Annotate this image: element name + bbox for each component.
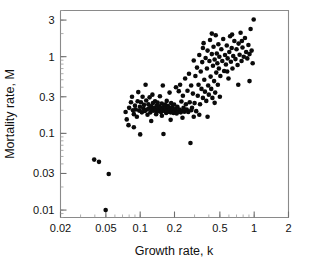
- data-point: [230, 32, 235, 37]
- data-point: [236, 82, 241, 87]
- data-point: [226, 76, 231, 81]
- data-point: [250, 61, 255, 66]
- x-tick-label: 0.05: [95, 222, 116, 234]
- y-tick-label: 0.03: [33, 167, 54, 179]
- y-axis-ticks: [61, 11, 67, 218]
- y-axis-tick-labels: 0.010.030.10.313: [33, 14, 54, 216]
- data-point: [246, 43, 251, 48]
- data-point: [215, 61, 220, 66]
- data-point: [210, 96, 215, 101]
- x-tick-label: 0.5: [212, 222, 227, 234]
- data-point: [183, 76, 188, 81]
- data-point: [207, 59, 212, 64]
- data-point: [187, 100, 192, 105]
- data-point: [224, 62, 229, 67]
- data-point: [212, 101, 217, 106]
- data-point: [187, 71, 192, 76]
- data-point: [201, 41, 206, 46]
- data-point: [132, 125, 137, 130]
- data-point: [192, 101, 197, 106]
- data-point: [136, 90, 141, 95]
- data-point: [209, 87, 214, 92]
- data-point: [251, 17, 256, 22]
- data-point: [232, 39, 237, 44]
- x-axis-ticks: [61, 212, 289, 218]
- data-point: [211, 44, 216, 49]
- y-tick-label: 3: [48, 14, 54, 26]
- data-point: [247, 79, 252, 84]
- data-point: [97, 160, 102, 165]
- data-point: [150, 92, 155, 97]
- data-point: [138, 132, 143, 137]
- data-point: [161, 132, 166, 137]
- data-point: [229, 59, 234, 64]
- data-point: [249, 48, 254, 53]
- data-point: [230, 66, 235, 71]
- data-point: [135, 114, 140, 119]
- data-point: [198, 69, 203, 74]
- data-point: [203, 56, 208, 61]
- data-point: [191, 58, 196, 63]
- data-point: [174, 85, 179, 90]
- data-point: [213, 33, 218, 38]
- data-point: [208, 38, 213, 43]
- data-point: [205, 66, 210, 71]
- data-point: [205, 48, 210, 53]
- data-point: [221, 37, 226, 42]
- data-point: [235, 63, 240, 68]
- data-point: [92, 157, 97, 162]
- data-point: [161, 83, 166, 88]
- data-point: [160, 113, 165, 118]
- data-point: [213, 90, 218, 95]
- data-point: [193, 74, 198, 79]
- data-point: [238, 30, 243, 35]
- data-point: [245, 56, 250, 61]
- data-point: [189, 108, 194, 113]
- data-point: [180, 115, 185, 120]
- x-axis-title: Growth rate, k: [135, 244, 214, 258]
- data-point: [149, 119, 154, 124]
- data-point: [212, 57, 217, 62]
- y-tick-label: 1: [48, 51, 54, 63]
- data-point: [197, 53, 202, 58]
- data-point: [248, 27, 253, 32]
- data-point: [130, 94, 135, 99]
- data-point: [123, 110, 128, 115]
- data-point: [237, 52, 242, 57]
- data-point: [219, 47, 224, 52]
- data-point: [167, 90, 172, 95]
- x-tick-label: 2: [285, 222, 291, 234]
- data-point: [217, 54, 222, 59]
- data-point: [218, 94, 223, 99]
- data-point: [227, 50, 232, 55]
- data-point: [176, 89, 181, 94]
- data-point: [234, 47, 239, 52]
- data-point: [201, 46, 206, 51]
- data-point: [191, 91, 196, 96]
- data-point: [127, 106, 132, 111]
- data-point: [198, 102, 203, 107]
- data-point: [216, 42, 221, 47]
- data-point: [197, 112, 202, 117]
- x-tick-label: 0.1: [133, 222, 148, 234]
- data-point: [208, 74, 213, 79]
- y-tick-label: 0.3: [39, 91, 54, 103]
- data-point: [133, 103, 138, 108]
- data-point: [229, 46, 234, 51]
- data-point: [124, 117, 129, 122]
- data-point: [126, 123, 131, 128]
- data-point: [129, 100, 134, 105]
- data-point: [240, 45, 245, 50]
- data-point: [103, 208, 108, 213]
- data-point: [210, 31, 215, 36]
- data-point: [168, 118, 173, 123]
- data-point: [195, 93, 200, 98]
- data-point: [205, 114, 210, 119]
- data-point: [106, 172, 111, 177]
- data-point: [191, 114, 196, 119]
- data-point: [218, 74, 223, 79]
- data-point: [224, 43, 229, 48]
- data-point: [202, 77, 207, 82]
- data-point: [185, 88, 190, 93]
- y-axis-title: Mortality rate, M: [3, 69, 17, 159]
